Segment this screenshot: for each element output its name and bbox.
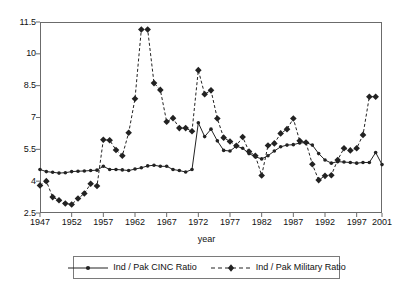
legend-swatch-dashed-diamond-icon — [210, 263, 252, 273]
legend-item-cinc[interactable]: Ind / Pak CINC Ratio — [67, 263, 197, 273]
x-tick-label: 1997 — [347, 218, 367, 227]
x-tick-label: 1982 — [252, 218, 272, 227]
x-axis-title: year — [0, 234, 413, 244]
chart-figure: 11.5108.575.542.5 year Ind / Pak CINC Ra… — [0, 0, 413, 292]
chart-svg-layer — [0, 0, 413, 292]
x-tick-label: 1987 — [283, 218, 303, 227]
x-tick-label: 1957 — [93, 218, 113, 227]
x-tick-label: 2001 — [372, 218, 392, 227]
series-ind-pak-cinc-ratio — [38, 121, 384, 175]
x-tick-label: 1967 — [157, 218, 177, 227]
legend-label-cinc: Ind / Pak CINC Ratio — [113, 263, 197, 272]
x-tick-label: 1972 — [188, 218, 208, 227]
legend-label-military: Ind / Pak Military Ratio — [256, 263, 346, 272]
x-tick-label: 1962 — [125, 218, 145, 227]
x-tick-label: 1952 — [62, 218, 82, 227]
series-ind-pak-military-ratio — [37, 26, 379, 208]
legend-swatch-solid-dot-icon — [67, 263, 109, 273]
chart-legend: Ind / Pak CINC Ratio Ind / Pak Military … — [73, 256, 340, 279]
x-tick-label: 1992 — [315, 218, 335, 227]
legend-item-military[interactable]: Ind / Pak Military Ratio — [210, 263, 346, 273]
x-tick-label: 1947 — [30, 218, 50, 227]
x-tick-label: 1977 — [220, 218, 240, 227]
